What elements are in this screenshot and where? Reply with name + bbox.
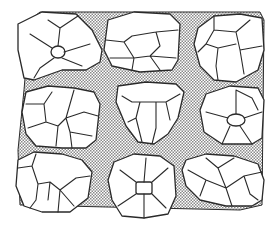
block-top-center <box>104 12 180 72</box>
cracked-blocks-figure <box>0 0 276 229</box>
block-bottom-left <box>16 152 92 212</box>
figure-svg <box>0 0 276 229</box>
block-middle-left <box>22 86 100 148</box>
block-bottom-center <box>108 154 176 218</box>
block-middle-right <box>200 86 264 144</box>
